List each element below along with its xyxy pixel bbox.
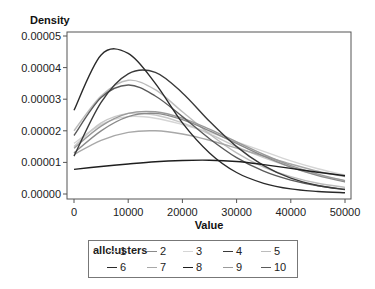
x-tick-label: 0 [71, 206, 77, 218]
legend-swatch-icon [147, 251, 157, 252]
legend-label: 1 [120, 245, 126, 257]
x-axis-ticks: 01000020000300004000050000 [71, 199, 360, 218]
legend-label: 2 [160, 245, 166, 257]
legend-label: 5 [274, 245, 280, 257]
legend-item-2: 2 [147, 244, 166, 258]
legend-swatch-icon [223, 251, 233, 252]
legend-item-1: 1 [107, 244, 126, 258]
legend-label: 10 [274, 261, 286, 273]
legend-label: 8 [196, 261, 202, 273]
density-curve-cluster-3 [74, 116, 345, 175]
y-tick-label: 0.00001 [21, 156, 61, 168]
legend-item-7: 7 [147, 260, 166, 274]
legend-label: 6 [120, 261, 126, 273]
y-tick-label: 0.00000 [21, 188, 61, 200]
legend-swatch-icon [183, 251, 193, 252]
y-axis-ticks: 0.000000.000010.000020.000030.000040.000… [21, 30, 67, 200]
legend-item-3: 3 [183, 244, 202, 258]
y-tick-label: 0.00004 [21, 62, 61, 74]
legend-swatch-icon [223, 267, 233, 268]
legend: allclusters 12345678910 [88, 240, 298, 278]
legend-swatch-icon [147, 267, 157, 268]
y-tick-label: 0.00005 [21, 30, 61, 42]
legend-swatch-icon [183, 267, 193, 268]
x-tick-label: 10000 [113, 206, 144, 218]
legend-item-5: 5 [261, 244, 280, 258]
x-tick-label: 50000 [330, 206, 361, 218]
legend-item-8: 8 [183, 260, 202, 274]
plot-frame [67, 32, 351, 199]
legend-item-9: 9 [223, 260, 242, 274]
density-curve-cluster-2 [74, 113, 345, 182]
legend-swatch-icon [107, 251, 117, 252]
legend-label: 3 [196, 245, 202, 257]
legend-label: 9 [236, 261, 242, 273]
legend-item-6: 6 [107, 260, 126, 274]
y-tick-label: 0.00003 [21, 93, 61, 105]
legend-item-4: 4 [223, 244, 242, 258]
density-curve-cluster-10 [74, 85, 345, 189]
y-tick-label: 0.00002 [21, 125, 61, 137]
legend-swatch-icon [261, 251, 271, 252]
x-tick-label: 40000 [276, 206, 307, 218]
x-tick-label: 30000 [221, 206, 252, 218]
x-tick-label: 20000 [167, 206, 198, 218]
legend-item-10: 10 [261, 260, 286, 274]
density-curves [74, 49, 345, 193]
legend-swatch-icon [107, 267, 117, 268]
legend-label: 7 [160, 261, 166, 273]
x-axis-title: Value [195, 219, 224, 231]
legend-label: 4 [236, 245, 242, 257]
y-axis-title: Density [30, 14, 71, 26]
legend-swatch-icon [261, 267, 271, 268]
